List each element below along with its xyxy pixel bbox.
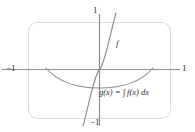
curve-f-label: f [116, 39, 119, 48]
y-axis-top-tick-label: 1 [93, 6, 98, 15]
figure-canvas: 1 −1 −1 1 f g(x) = ∫ f(x) dx [0, 0, 195, 132]
x-axis-right-tick-label: 1 [182, 64, 187, 73]
plot-svg [0, 0, 195, 132]
g-formula-text: g(x) = ∫ f(x) dx [99, 87, 149, 97]
curve-g-formula-label: g(x) = ∫ f(x) dx [99, 88, 149, 97]
x-axis-left-tick-label: −1 [6, 64, 16, 73]
y-axis-bottom-tick-label: −1 [90, 118, 100, 127]
